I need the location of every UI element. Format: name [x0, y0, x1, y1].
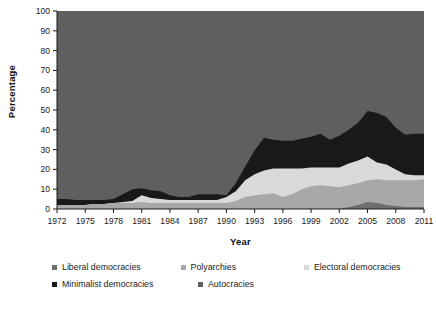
y-tick-label: 60	[40, 85, 50, 95]
legend-swatch-icon	[52, 265, 57, 270]
legend-item[interactable]: Electoral democracies	[304, 262, 436, 273]
legend-label: Minimalist democracies	[62, 279, 153, 290]
x-tick-label: 1984	[160, 216, 179, 226]
legend-swatch-icon	[304, 265, 309, 270]
y-tick-label: 20	[40, 164, 50, 174]
x-tick-label: 1993	[245, 216, 264, 226]
x-tick-label: 2008	[386, 216, 405, 226]
legend-swatch-icon	[181, 265, 186, 270]
legend-item[interactable]: Autocracies	[198, 279, 338, 290]
y-tick-label: 80	[40, 46, 50, 56]
x-tick-label: 2005	[358, 216, 377, 226]
x-tick-label: 1996	[273, 216, 292, 226]
y-axis-tick-marks	[53, 11, 57, 209]
x-tick-label: 1990	[217, 216, 236, 226]
x-axis-tick-marks	[57, 209, 424, 213]
y-tick-label: 40	[40, 125, 50, 135]
legend-item[interactable]: Minimalist democracies	[52, 279, 198, 290]
legend-row: Liberal democraciesPolyarchiesElectoral …	[52, 262, 436, 279]
x-axis-tick-labels: 1972197519781981198419871990199319961999…	[47, 216, 433, 226]
x-tick-label: 1981	[132, 216, 151, 226]
x-tick-label: 1978	[104, 216, 123, 226]
y-tick-label: 50	[40, 105, 50, 115]
y-tick-label: 70	[40, 65, 50, 75]
x-axis-title: Year	[57, 236, 424, 247]
y-tick-label: 0	[45, 204, 50, 214]
y-tick-label: 100	[36, 6, 51, 16]
legend-swatch-icon	[52, 282, 57, 287]
legend-item[interactable]: Liberal democracies	[52, 262, 181, 273]
legend-label: Autocracies	[208, 279, 254, 290]
legend-label: Polyarchies	[191, 262, 236, 273]
plot-canvas: 0102030405060708090100 19721975197819811…	[0, 0, 436, 232]
x-tick-label: 1975	[76, 216, 95, 226]
x-tick-label: 1972	[47, 216, 66, 226]
x-tick-label: 1999	[302, 216, 321, 226]
y-tick-label: 90	[40, 26, 50, 36]
legend-label: Liberal democracies	[62, 262, 141, 273]
x-tick-label: 2002	[330, 216, 349, 226]
area-series-group	[57, 11, 424, 209]
stacked-area-chart: Percentage 0102030405060708090100 197219…	[0, 0, 436, 314]
y-tick-label: 10	[40, 184, 50, 194]
x-tick-label: 1987	[189, 216, 208, 226]
legend-item[interactable]: Polyarchies	[181, 262, 304, 273]
legend-swatch-icon	[198, 282, 203, 287]
y-axis-tick-labels: 0102030405060708090100	[36, 6, 51, 214]
y-tick-label: 30	[40, 145, 50, 155]
chart-legend: Liberal democraciesPolyarchiesElectoral …	[52, 262, 436, 296]
legend-label: Electoral democracies	[314, 262, 401, 273]
x-tick-label: 2011	[415, 216, 434, 226]
legend-row: Minimalist democraciesAutocracies	[52, 279, 436, 296]
